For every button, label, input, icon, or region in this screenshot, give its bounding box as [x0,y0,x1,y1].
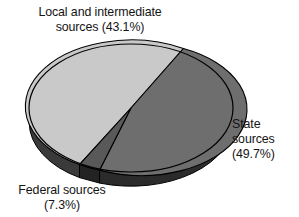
slice-label-local: Local and intermediate sources (43.1%) [16,5,184,35]
slice-label-federal-line2: (7.3%) [4,198,120,213]
slice-label-state-line2: sources [232,132,275,147]
slice-label-federal: Federal sources (7.3%) [4,183,120,213]
slice-label-federal-line1: Federal sources [4,183,120,198]
slice-label-local-line1: Local and intermediate [16,5,184,20]
slice-label-local-line2: sources (43.1%) [16,20,184,35]
slice-label-state-line1: State [232,117,275,132]
slice-label-state-line3: (49.7%) [232,147,275,162]
slice-label-state: State sources (49.7%) [232,117,275,163]
pie-chart: Local and intermediate sources (43.1%) S… [0,0,299,217]
